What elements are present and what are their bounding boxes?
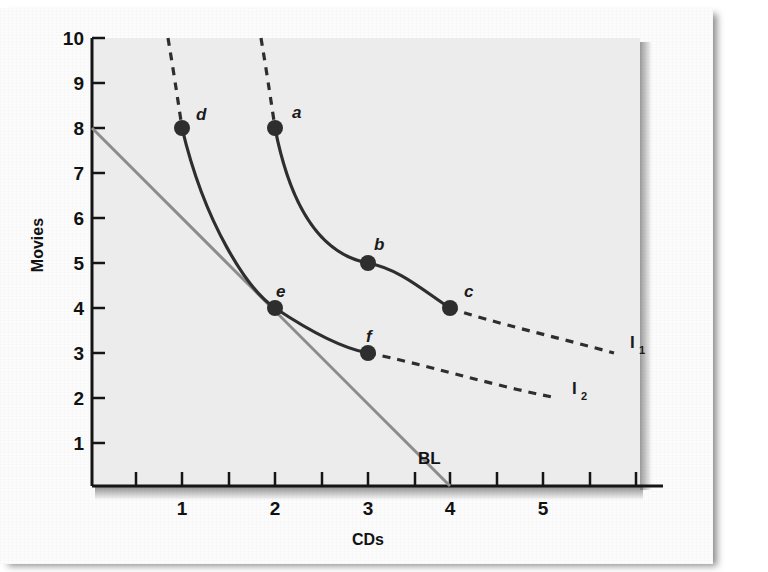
y-tick-7: 7	[73, 163, 84, 184]
y-tick-10: 10	[63, 28, 84, 49]
budget-line-label: BL	[418, 449, 441, 468]
x-tick-5: 5	[538, 498, 549, 519]
curve-label-i1-main: I	[630, 333, 635, 352]
point-label-d: d	[196, 105, 207, 124]
indifference-curve-chart: 10 9 8 7 6 5 4 3 2 1 1	[0, 0, 768, 572]
point-label-e: e	[276, 282, 285, 301]
point-marker-b	[360, 255, 376, 271]
point-label-b: b	[374, 235, 384, 254]
page-canvas: 10 9 8 7 6 5 4 3 2 1 1	[0, 0, 768, 572]
point-marker-d	[174, 120, 190, 136]
y-tick-3: 3	[73, 343, 84, 364]
curve-label-i2-sub: 2	[581, 390, 587, 402]
y-tick-9: 9	[73, 73, 84, 94]
y-tick-4: 4	[73, 298, 84, 319]
point-marker-c	[442, 300, 458, 316]
y-tick-5: 5	[73, 253, 84, 274]
point-label-c: c	[464, 282, 474, 301]
y-tick-6: 6	[73, 208, 84, 229]
point-marker-f	[360, 345, 376, 361]
point-marker-a	[267, 120, 283, 136]
x-axis-title: CDs	[352, 531, 384, 548]
plot-right-shadow	[640, 42, 652, 490]
y-tick-1: 1	[73, 433, 84, 454]
x-tick-1: 1	[177, 498, 188, 519]
x-tick-2: 2	[270, 498, 281, 519]
y-axis-tick-labels: 10 9 8 7 6 5 4 3 2 1	[63, 28, 85, 454]
point-label-a: a	[292, 103, 301, 122]
x-axis-tick-labels: 1 2 3 4 5	[177, 498, 549, 519]
curve-label-i2-main: I	[572, 379, 577, 398]
curve-label-i1-sub: 1	[639, 344, 645, 356]
x-tick-3: 3	[363, 498, 374, 519]
x-tick-4: 4	[445, 498, 456, 519]
y-tick-8: 8	[73, 118, 84, 139]
y-axis-title: Movies	[29, 218, 46, 272]
point-marker-e	[267, 300, 283, 316]
y-tick-2: 2	[73, 388, 84, 409]
